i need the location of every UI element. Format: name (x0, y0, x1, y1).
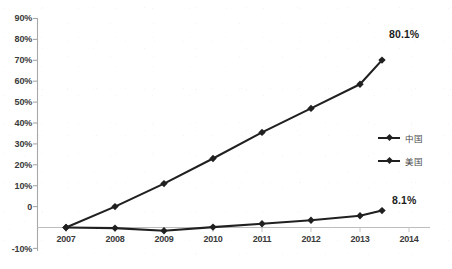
x-tick-label-2008: 2008 (95, 234, 135, 244)
x-tick-label-2010: 2010 (193, 234, 233, 244)
y-tick-label-70: 70% (0, 55, 32, 65)
y-tick-label-30: 30% (0, 139, 32, 149)
data-label-china: 80.1% (389, 28, 419, 40)
series-markers-usa (62, 207, 385, 235)
y-tick-label-50: 50% (0, 97, 32, 107)
legend-label-china: 中国 (405, 132, 424, 144)
series-markers-china (62, 56, 385, 231)
x-tick-label-2014: 2014 (389, 234, 429, 244)
x-tick-label-2012: 2012 (291, 234, 331, 244)
y-tick-label-40: 40% (0, 118, 32, 128)
y-tick-label-90: 90% (0, 13, 32, 23)
legend-label-usa: 美国 (405, 155, 424, 167)
x-tick-label-2007: 2007 (46, 234, 86, 244)
legend-swatch-usa (378, 156, 400, 166)
legend-swatch-china (378, 133, 400, 143)
y-tick-label-80: 80% (0, 34, 32, 44)
legend-item-usa[interactable]: 美国 (378, 153, 448, 168)
line-chart: 90% 80% 70% 60% 50% 40% 30% 20% 10% 0 -1… (0, 0, 452, 269)
y-tick-label-neg10: -10% (0, 244, 32, 254)
series-line-china (66, 60, 382, 227)
y-tick-label-0: 0 (0, 202, 32, 212)
x-tick-label-2011: 2011 (242, 234, 282, 244)
legend-item-china[interactable]: 中国 (378, 130, 448, 145)
y-axis-ticks (33, 19, 38, 249)
y-tick-label-60: 60% (0, 76, 32, 86)
y-tick-label-20: 20% (0, 160, 32, 170)
chart-legend: 中国 美国 (378, 130, 448, 176)
x-tick-label-2013: 2013 (340, 234, 380, 244)
y-tick-label-10: 10% (0, 181, 32, 191)
x-tick-label-2009: 2009 (144, 234, 184, 244)
data-label-usa: 8.1% (392, 194, 416, 206)
